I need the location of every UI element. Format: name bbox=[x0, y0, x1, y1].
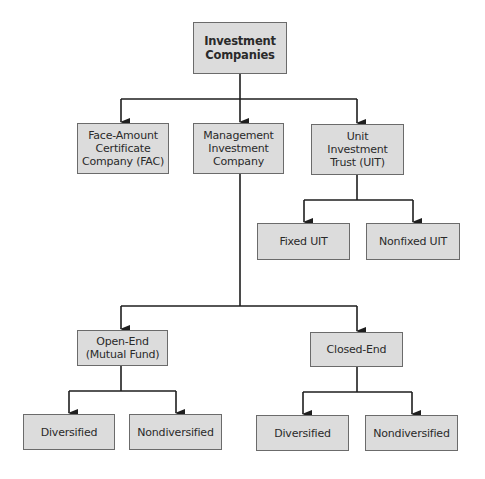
node-fixed-uit: Fixed UIT bbox=[257, 223, 350, 260]
node-nonfixed-uit: Nonfixed UIT bbox=[366, 223, 460, 260]
node-open-end-nondiversified: Nondiversified bbox=[129, 414, 222, 450]
node-closed-end: Closed-End bbox=[310, 332, 403, 367]
investment-companies-diagram: Investment Companies Face-Amount Certifi… bbox=[0, 0, 485, 479]
node-closed-end-diversified: Diversified bbox=[256, 415, 349, 451]
node-open-end-diversified: Diversified bbox=[23, 414, 115, 450]
node-closed-end-nondiversified: Nondiversified bbox=[365, 415, 458, 451]
node-investment-companies: Investment Companies bbox=[193, 22, 287, 74]
node-unit-investment-trust: Unit Investment Trust (UIT) bbox=[311, 124, 404, 175]
node-management-investment-company: Management Investment Company bbox=[193, 123, 284, 174]
node-face-amount-certificate-company: Face-Amount Certificate Company (FAC) bbox=[77, 123, 169, 174]
node-open-end-mutual-fund: Open-End (Mutual Fund) bbox=[77, 330, 168, 366]
